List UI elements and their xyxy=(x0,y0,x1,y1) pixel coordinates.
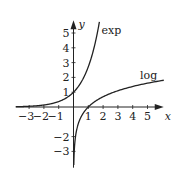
y-tick-label: 4 xyxy=(63,42,70,55)
x-axis-label: x xyxy=(165,110,172,123)
x-axis-arrow-icon xyxy=(155,104,164,110)
x-tick-label: 1 xyxy=(85,110,92,123)
y-tick-label: 2 xyxy=(63,71,70,84)
axes xyxy=(16,20,164,168)
y-tick-label: −2 xyxy=(53,131,69,144)
curves xyxy=(16,22,164,165)
x-tick-label: 4 xyxy=(129,110,136,123)
x-tick-label: 5 xyxy=(144,110,151,123)
y-tick-label: 5 xyxy=(63,27,70,40)
ticks: −3−2−112345−3−212345 xyxy=(18,27,151,158)
curve-label-exp: exp xyxy=(102,24,122,37)
curve-exp xyxy=(16,22,100,107)
curve-label-log: log xyxy=(140,69,157,82)
x-tick-label: 3 xyxy=(114,110,121,123)
x-tick-label: −3 xyxy=(18,110,34,123)
y-tick-label: −3 xyxy=(53,145,69,158)
x-tick-label: −1 xyxy=(48,110,64,123)
x-tick-label: −2 xyxy=(33,110,49,123)
function-chart: −3−2−112345−3−212345 xyexplog xyxy=(0,0,176,196)
y-axis-label: y xyxy=(78,18,86,31)
x-tick-label: 2 xyxy=(100,110,107,123)
y-tick-label: 3 xyxy=(63,57,70,70)
y-axis-arrow-icon xyxy=(71,20,77,29)
